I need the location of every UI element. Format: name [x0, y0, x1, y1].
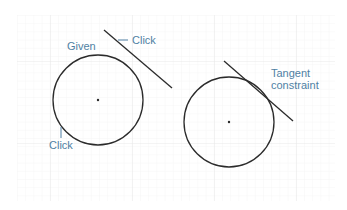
given-label: Given — [67, 40, 96, 52]
grid — [17, 15, 335, 201]
center-point — [97, 99, 99, 101]
click-circle-label: Click — [49, 139, 73, 151]
diagram-canvas: Given Click Click Tangent constraint — [0, 0, 347, 210]
tangent-constraint-label-line2: constraint — [271, 79, 319, 91]
tangent-constraint-label-line1: Tangent — [271, 67, 310, 79]
center-point — [228, 121, 230, 123]
click-line-label: Click — [132, 34, 156, 46]
